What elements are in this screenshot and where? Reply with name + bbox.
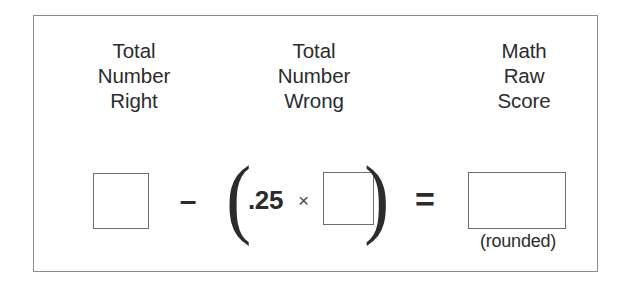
raw-score-result-group: (rounded) [462, 156, 582, 261]
header-total-number-right-line1: Total [54, 38, 214, 63]
header-math-raw-score: Math Raw Score [454, 38, 594, 113]
header-math-raw-score-line3: Score [454, 88, 594, 113]
math-raw-score-formula-panel: Total Number Right Total Number Wrong Ma… [33, 15, 598, 272]
header-total-number-wrong-line3: Wrong [229, 88, 399, 113]
multiply-operator: × [298, 189, 309, 213]
header-total-number-right-line3: Right [54, 88, 214, 113]
penalty-term-group: ( .25 × ) [222, 156, 388, 256]
input-box-math-raw-score[interactable] [468, 172, 566, 229]
formula-header-row: Total Number Right Total Number Wrong Ma… [34, 38, 597, 138]
header-total-number-wrong-line1: Total [229, 38, 399, 63]
equals-operator: = [400, 182, 450, 216]
header-total-number-wrong: Total Number Wrong [229, 38, 399, 113]
parenthesis-close-icon: ) [364, 150, 389, 246]
header-total-number-right: Total Number Right [54, 38, 214, 113]
rounded-note: (rounded) [462, 230, 574, 252]
penalty-factor-value: .25 [248, 185, 283, 215]
input-box-total-number-right[interactable] [93, 173, 149, 229]
formula-equation-row: – ( .25 × ) = (rounded) [34, 156, 597, 266]
header-math-raw-score-line2: Raw [454, 63, 594, 88]
header-math-raw-score-line1: Math [454, 38, 594, 63]
minus-operator: – [166, 186, 210, 216]
header-total-number-wrong-line2: Number [229, 63, 399, 88]
header-total-number-right-line2: Number [54, 63, 214, 88]
